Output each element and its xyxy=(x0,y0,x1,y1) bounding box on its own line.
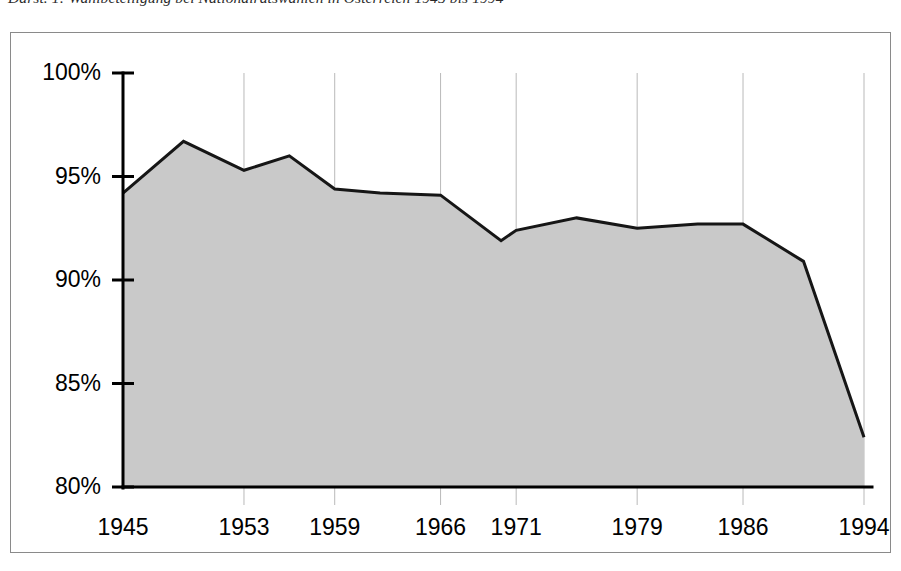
x-tick-label-1959: 1959 xyxy=(309,514,360,540)
y-tick-label-80: 80% xyxy=(55,473,101,499)
x-tick-label-1966: 1966 xyxy=(415,514,466,540)
series-area xyxy=(123,141,864,487)
y-tick-label-100: 100% xyxy=(42,59,101,85)
y-tick-label-95: 95% xyxy=(55,163,101,189)
chart-area: 80%85%90%95%100% 19451953195919661971197… xyxy=(11,33,892,554)
x-tick-label-1986: 1986 xyxy=(717,514,768,540)
turnout-area-chart: 80%85%90%95%100% 19451953195919661971197… xyxy=(11,33,892,554)
figure-caption-strip: Darst. 1: Wahlbeteiligung bei Nationalra… xyxy=(0,0,901,16)
figure-frame: 80%85%90%95%100% 19451953195919661971197… xyxy=(10,32,891,553)
y-tick-labels: 80%85%90%95%100% xyxy=(42,59,101,499)
x-tick-label-1979: 1979 xyxy=(612,514,663,540)
x-tick-label-1994: 1994 xyxy=(838,514,889,540)
y-tick-label-85: 85% xyxy=(55,370,101,396)
x-tick-label-1945: 1945 xyxy=(97,514,148,540)
area-fill-path xyxy=(123,141,864,487)
x-tick-label-1953: 1953 xyxy=(218,514,269,540)
x-tick-label-1971: 1971 xyxy=(491,514,542,540)
figure-caption: Darst. 1: Wahlbeteiligung bei Nationalra… xyxy=(8,0,504,7)
x-tick-labels: 19451953195919661971197919861994 xyxy=(97,514,889,540)
y-tick-label-90: 90% xyxy=(55,266,101,292)
